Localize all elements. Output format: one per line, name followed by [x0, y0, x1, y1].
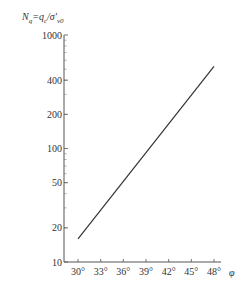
x-tick-label: 30°	[71, 266, 85, 277]
y-axis-label: Nq=qc/σ'v0	[21, 11, 64, 25]
y-tick-label: 50	[52, 177, 62, 188]
y-tick-label: 20	[52, 222, 62, 233]
series-line	[78, 66, 214, 239]
y-tick-label: 200	[47, 109, 62, 120]
x-tick-label: 39°	[139, 266, 153, 277]
y-tick-label: 100	[47, 143, 62, 154]
y-tick-label: 1000	[42, 30, 62, 41]
x-tick-label: 42°	[162, 266, 176, 277]
x-tick-label: 33°	[94, 266, 108, 277]
y-tick-label: 10	[52, 257, 62, 268]
nq-phi-chart: 1020501002004001000 30°33°36°39°42°45°48…	[0, 0, 249, 294]
x-axis-label: φ	[229, 267, 235, 278]
data-series	[78, 66, 214, 239]
axes	[64, 35, 221, 262]
x-tick-label: 45°	[184, 266, 198, 277]
x-tick-label: 36°	[116, 266, 130, 277]
y-tick-label: 400	[47, 75, 62, 86]
x-tick-label: 48°	[207, 266, 221, 277]
